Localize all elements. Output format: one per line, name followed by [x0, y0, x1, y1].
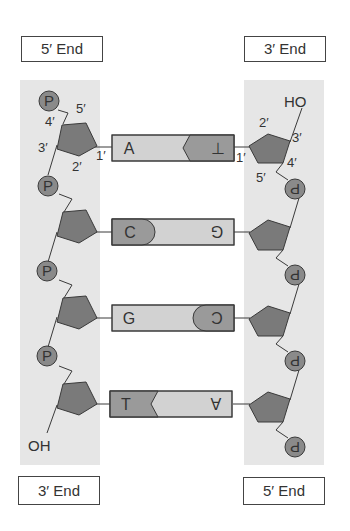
base-left-3: G	[123, 310, 135, 327]
sugar-right-2	[249, 220, 290, 250]
phosphate-label: P	[42, 347, 52, 364]
phosphate-label: P	[42, 262, 52, 279]
phosphate-label: P	[290, 267, 300, 284]
carbon-label-2prime-right: 2′	[259, 115, 269, 130]
base-left-4: T	[121, 396, 131, 413]
carbon-label-3prime-right: 3′	[292, 130, 302, 145]
carbon-label-4prime: 4′	[45, 114, 55, 129]
phosphate-label: P	[290, 439, 300, 456]
carbon-label-4prime-right: 4′	[287, 155, 297, 170]
phosphate-label: P	[290, 353, 300, 370]
dna-structure: P P P P P P P P 5′ 4′ 3′ 2′ 1′ 2′ 3′ 1′ …	[0, 0, 350, 531]
sugar-right-1	[249, 134, 290, 163]
sugar-right-4	[249, 392, 290, 422]
base-left-2: C	[124, 224, 136, 241]
base-right-2: G	[211, 223, 223, 240]
phosphate-label: P	[43, 177, 53, 194]
base-right-4: A	[210, 395, 221, 412]
sugar-left-1	[57, 123, 97, 156]
sugar-left-4	[57, 382, 97, 415]
terminal-ho-label: HO	[284, 93, 307, 110]
base-right-3: C	[211, 309, 223, 326]
sugar-right-3	[249, 306, 290, 336]
carbon-label-1prime: 1′	[96, 148, 106, 163]
carbon-label-5prime: 5′	[76, 101, 86, 116]
carbon-label-3prime: 3′	[38, 140, 48, 155]
sugar-left-2	[57, 210, 97, 243]
terminal-oh-label: OH	[28, 437, 51, 454]
phosphate-label: P	[44, 92, 54, 109]
base-right-1: ⊥	[211, 140, 225, 157]
base-left-1: A	[124, 140, 135, 157]
carbon-label-5prime-right: 5′	[256, 170, 266, 185]
sugar-left-3	[57, 296, 97, 329]
carbon-label-2prime: 2′	[72, 159, 82, 174]
dna-diagram: 5′ End 3′ End 3′ End 5′ End	[0, 0, 350, 531]
phosphate-label: P	[290, 181, 300, 198]
carbon-label-1prime-right: 1′	[236, 150, 246, 165]
